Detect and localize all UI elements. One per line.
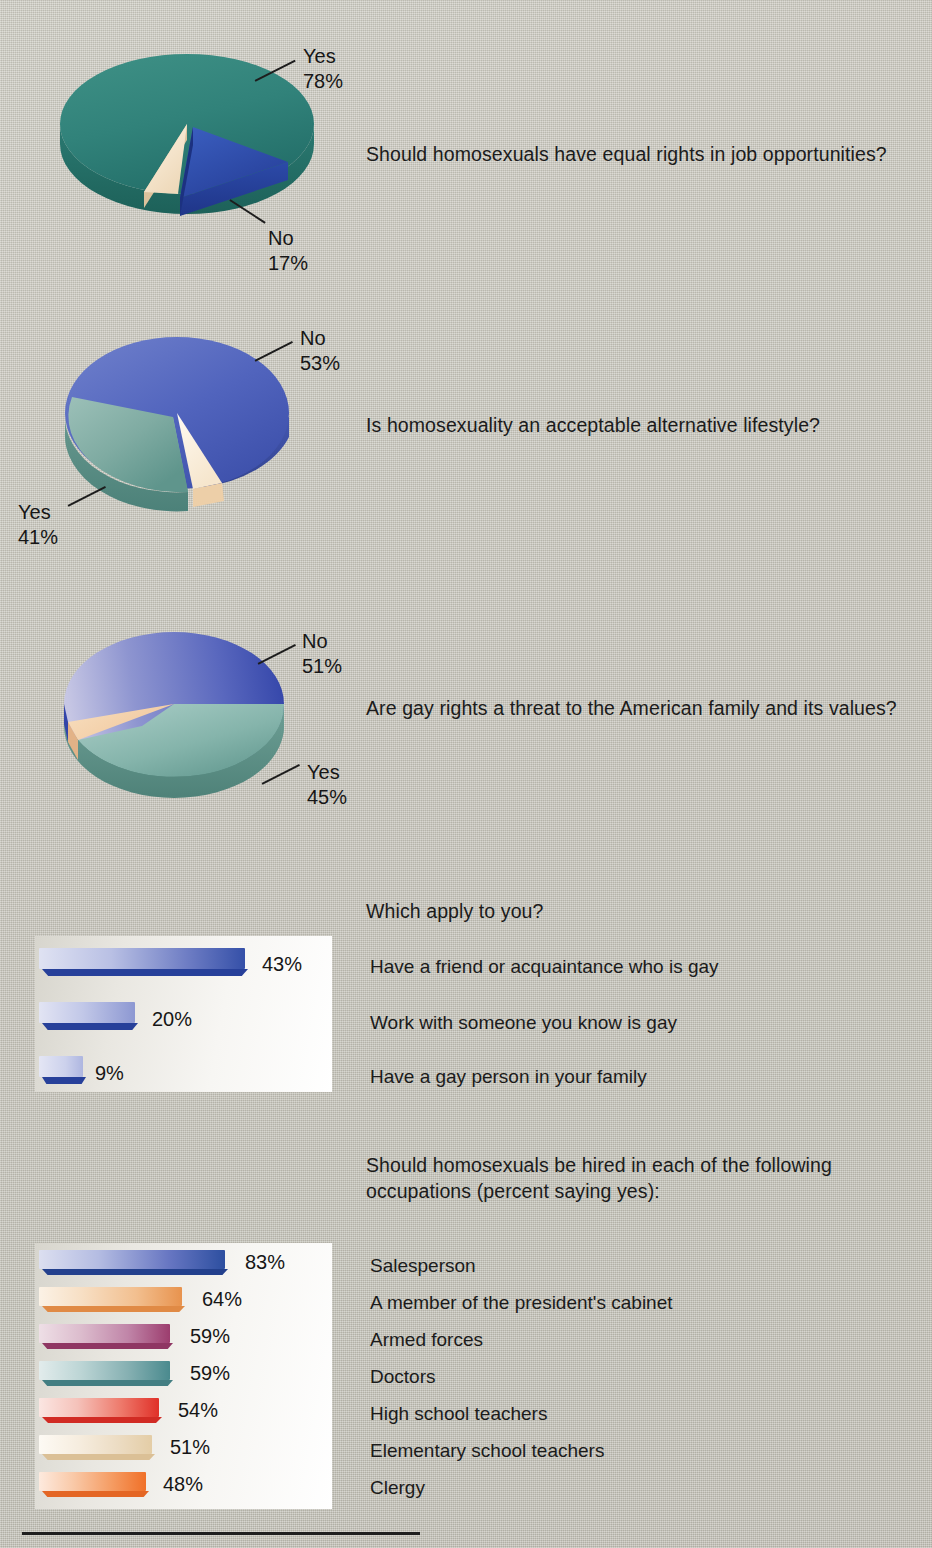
occupation-value-7: 48% (163, 1473, 203, 1496)
occupation-label-1: Salesperson (370, 1254, 476, 1278)
footer-divider (22, 1532, 420, 1535)
apply-bar-3 (39, 1056, 83, 1077)
apply-bar-base-1 (42, 969, 248, 976)
occupation-bar-3 (39, 1324, 170, 1343)
apply-label-1: Have a friend or acquaintance who is gay (370, 955, 719, 979)
occupation-bar-base-7 (42, 1491, 149, 1497)
pie-chart-3 (62, 622, 287, 802)
occupation-bar-1 (39, 1250, 225, 1269)
occupation-bar-6 (39, 1435, 152, 1454)
apply-value-2: 20% (152, 1008, 192, 1031)
occupation-value-1: 83% (245, 1251, 285, 1274)
pie3-label-no: No 51% (302, 629, 342, 679)
apply-heading: Which apply to you? (366, 898, 544, 924)
occupation-bar-base-6 (42, 1454, 155, 1460)
pie1-label-yes: Yes 78% (303, 44, 343, 94)
occupation-label-2: A member of the president's cabinet (370, 1291, 673, 1315)
occupations-heading: Should homosexuals be hired in each of t… (366, 1152, 886, 1204)
apply-bar-2 (39, 1002, 135, 1023)
occupation-bar-base-2 (42, 1306, 185, 1312)
occupation-label-3: Armed forces (370, 1328, 483, 1352)
occupation-bar-4 (39, 1361, 170, 1380)
question-1: Should homosexuals have equal rights in … (366, 141, 926, 167)
occupation-value-4: 59% (190, 1362, 230, 1385)
occupation-value-3: 59% (190, 1325, 230, 1348)
occupation-bar-base-1 (42, 1269, 228, 1275)
question-3: Are gay rights a threat to the American … (366, 695, 931, 721)
apply-bar-1 (39, 948, 245, 969)
question-2: Is homosexuality an acceptable alternati… (366, 412, 926, 438)
occupation-bar-5 (39, 1398, 159, 1417)
occupation-bar-base-5 (42, 1417, 162, 1423)
occupation-label-6: Elementary school teachers (370, 1439, 604, 1463)
occupation-value-6: 51% (170, 1436, 210, 1459)
pie-chart-2 (62, 325, 292, 515)
occupation-bar-base-3 (42, 1343, 173, 1349)
occupation-value-2: 64% (202, 1288, 242, 1311)
occupation-label-5: High school teachers (370, 1402, 547, 1426)
apply-bar-base-2 (42, 1023, 138, 1030)
occupation-value-5: 54% (178, 1399, 218, 1422)
apply-value-3: 9% (95, 1062, 124, 1085)
occupation-label-4: Doctors (370, 1365, 435, 1389)
apply-value-1: 43% (262, 953, 302, 976)
occupation-label-7: Clergy (370, 1476, 425, 1500)
apply-label-2: Work with someone you know is gay (370, 1011, 677, 1035)
occupation-bar-7 (39, 1472, 146, 1491)
apply-bar-base-3 (42, 1077, 86, 1084)
pie2-label-yes: Yes 41% (18, 500, 58, 550)
pie-chart-1 (52, 28, 322, 228)
pie3-label-yes: Yes 45% (307, 760, 347, 810)
apply-label-3: Have a gay person in your family (370, 1065, 647, 1089)
infographic-page: Yes 78% No 17% Should homosexuals have e… (0, 0, 932, 1548)
occupation-bar-2 (39, 1287, 182, 1306)
pie2-label-no: No 53% (300, 326, 340, 376)
occupation-bar-base-4 (42, 1380, 173, 1386)
pie1-label-no: No 17% (268, 226, 308, 276)
